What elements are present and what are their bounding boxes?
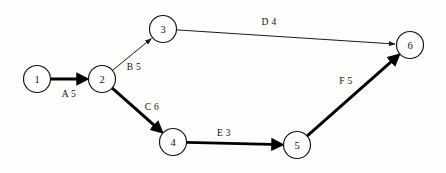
network-diagram-canvas: 123456 A 5B 5C 6D 4E 3F 5 xyxy=(0,0,446,173)
edge-label-f: F 5 xyxy=(339,76,352,86)
node-label-5: 5 xyxy=(294,140,299,151)
edge-label-a: A 5 xyxy=(62,89,76,99)
node-label-4: 4 xyxy=(170,137,176,148)
node-4[interactable]: 4 xyxy=(160,129,187,156)
edge-d-line xyxy=(177,30,395,44)
node-1[interactable]: 1 xyxy=(24,66,51,93)
edge-label-e: E 3 xyxy=(217,128,231,138)
node-3[interactable]: 3 xyxy=(150,16,177,43)
edge-label-b: B 5 xyxy=(127,62,141,72)
node-label-1: 1 xyxy=(34,74,39,85)
node-6[interactable]: 6 xyxy=(397,32,424,59)
node-5[interactable]: 5 xyxy=(284,132,311,159)
node-label-2: 2 xyxy=(99,74,104,85)
node-label-3: 3 xyxy=(160,24,165,35)
edge-label-c: C 6 xyxy=(145,102,159,112)
edge-e-line xyxy=(187,142,281,144)
edge-label-d: D 4 xyxy=(262,17,277,27)
edge-f-line xyxy=(307,56,398,136)
node-2[interactable]: 2 xyxy=(89,66,116,93)
network-diagram: 123456 A 5B 5C 6D 4E 3F 5 xyxy=(0,0,446,173)
node-label-6: 6 xyxy=(407,40,412,51)
